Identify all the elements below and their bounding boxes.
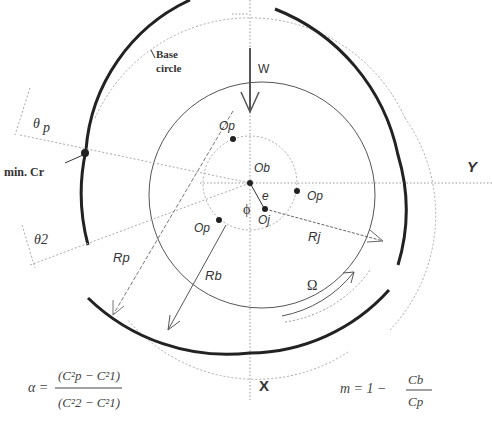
omega-label: Ω: [307, 278, 317, 293]
theta2-label: θ2: [34, 232, 48, 247]
op-top-label: Op: [219, 119, 235, 133]
base-circle-bottom: [128, 320, 348, 379]
alpha-numerator: (C²p − C²1): [58, 368, 120, 383]
alpha-lhs: α =: [28, 380, 48, 395]
load-label: W: [258, 62, 270, 76]
min-cr-label: min. Cr: [4, 165, 45, 179]
y-axis-label: Y: [467, 158, 479, 175]
op-left-point: [216, 217, 222, 223]
min-cr-leader: [65, 155, 83, 163]
m-equation: m = 1 − Cb Cp: [340, 372, 432, 409]
x-axis-label: X: [259, 377, 269, 394]
m-lhs: m = 1 −: [340, 381, 387, 396]
base-circle-leader: [151, 50, 155, 58]
rp-arrow-head: [113, 300, 124, 315]
rj-label: Rj: [308, 229, 321, 244]
rj-line: [265, 209, 383, 241]
op-right-point: [294, 188, 300, 194]
m-denominator: Cp: [408, 394, 424, 409]
radial-min-cr: [20, 135, 250, 183]
base-circle-label-2: circle: [156, 62, 182, 74]
alpha-denominator: (C²2 − C²1): [58, 395, 120, 410]
op-right-label: Op: [307, 189, 323, 203]
alpha-equation: α = (C²p − C²1) (C²2 − C²1): [28, 368, 122, 410]
lobe-bottom: [88, 290, 389, 354]
e-label: e: [262, 189, 269, 203]
theta-p-arc: [15, 88, 30, 135]
op-left-label: Op: [194, 221, 210, 235]
rp-label: Rp: [113, 250, 130, 265]
bearing-diagram: Base circle W θp min. Cr Y X Ob Oj Op Op…: [0, 0, 492, 437]
ob-point: [247, 180, 253, 186]
phi-label: ϕ: [243, 202, 250, 217]
oj-label: Oj: [258, 213, 270, 227]
oj-point: [262, 206, 268, 212]
m-numerator: Cb: [408, 372, 424, 387]
base-circle-label-1: Base: [156, 48, 178, 60]
lobe-upper-left: [81, 0, 190, 245]
ob-label: Ob: [254, 161, 270, 175]
inner-dotted-arc: [285, 270, 370, 322]
radial-theta2: [30, 183, 250, 265]
rb-label: Rb: [205, 268, 222, 283]
rp-line: [113, 111, 233, 315]
lobe-upper-right: [275, 9, 406, 265]
omega-arrow: [282, 272, 354, 316]
theta-p-label: θp: [33, 116, 50, 135]
op-top-point: [230, 136, 236, 142]
